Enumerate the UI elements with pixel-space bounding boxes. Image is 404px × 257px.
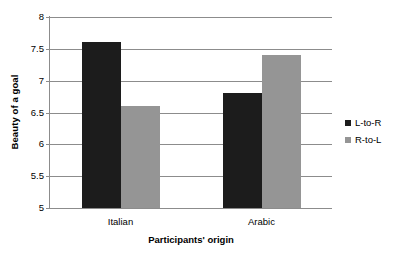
y-axis-tick-mark <box>46 113 50 114</box>
legend-swatch-icon <box>345 137 351 143</box>
y-axis-tick-mark <box>46 17 50 18</box>
x-axis-tick-label: Arabic <box>212 216 312 228</box>
bar-arabic-r-to-l <box>262 55 301 208</box>
y-axis-tick-mark <box>46 144 50 145</box>
y-axis-tick-label: 5.5 <box>16 171 48 181</box>
y-axis-tick-mark <box>46 208 50 209</box>
plot-inner <box>50 17 332 208</box>
y-axis-tick-labels: 55.566.577.58 <box>16 0 48 257</box>
y-axis-tick-label: 5 <box>16 203 48 213</box>
y-axis-tick-label: 7 <box>16 76 48 86</box>
legend-swatch-icon <box>345 120 351 126</box>
plot-area <box>50 17 332 208</box>
gridline <box>50 17 332 18</box>
bar-chart-figure: Beauty of a goal 55.566.577.58 Participa… <box>0 0 404 257</box>
legend-item: L-to-R <box>345 114 403 131</box>
y-axis-tick-label: 8 <box>16 12 48 22</box>
y-axis-tick-label: 6 <box>16 139 48 149</box>
y-axis-tick-mark <box>46 176 50 177</box>
bar-arabic-l-to-r <box>223 93 262 208</box>
legend-label: L-to-R <box>355 117 381 128</box>
legend-label: R-to-L <box>355 134 381 145</box>
x-axis-title: Participants' origin <box>50 234 332 245</box>
x-axis-tick-label: Italian <box>71 216 171 228</box>
y-axis-tick-label: 6.5 <box>16 108 48 118</box>
gridline <box>50 208 332 209</box>
y-axis-tick-mark <box>46 81 50 82</box>
bar-italian-r-to-l <box>121 106 160 208</box>
y-axis-tick-mark <box>46 49 50 50</box>
legend: L-to-RR-to-L <box>345 114 403 148</box>
y-axis-tick-label: 7.5 <box>16 44 48 54</box>
bar-italian-l-to-r <box>82 42 121 208</box>
legend-item: R-to-L <box>345 131 403 148</box>
